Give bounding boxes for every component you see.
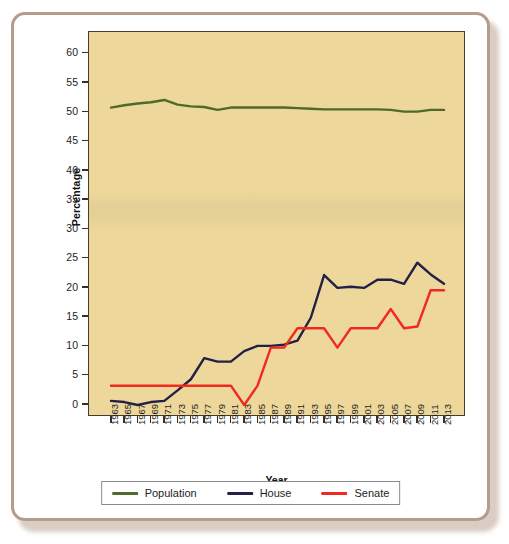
plot-wrapper: Percentage 051015202530354045505560 Year…	[88, 31, 465, 416]
series-line-senate	[111, 290, 444, 405]
x-tick-label: 1987	[270, 404, 280, 425]
x-axis: Year 19631965196719691971197319751977197…	[88, 416, 465, 478]
y-tick-label: 55	[66, 77, 78, 88]
y-tick-label: 35	[66, 194, 78, 205]
x-tick-label: 2001	[363, 404, 373, 425]
figure-card: Percentage 051015202530354045505560 Year…	[11, 12, 490, 521]
x-tick-label: 2005	[390, 404, 400, 425]
y-tick-label: 40	[66, 165, 78, 176]
x-tick-label: 1991	[296, 404, 306, 425]
x-tick-label: 1967	[137, 404, 147, 425]
series-line-house	[111, 263, 444, 405]
legend-label: Population	[145, 487, 197, 499]
x-tick-label: 1975	[190, 404, 200, 425]
y-tick-label: 30	[66, 223, 78, 234]
x-tick-label: 1971	[163, 404, 173, 425]
x-tick-label: 2013	[443, 404, 453, 425]
x-tick-label: 1981	[230, 404, 240, 425]
x-tick-label: 1973	[177, 404, 187, 425]
x-tick-label: 1977	[203, 404, 213, 425]
x-tick-label: 1995	[323, 404, 333, 425]
plot-area	[88, 31, 465, 416]
x-tick-label: 1999	[350, 404, 360, 425]
y-tick-label: 50	[66, 106, 78, 117]
x-tick-label: 2011	[430, 405, 440, 425]
y-tick-label: 10	[66, 340, 78, 351]
x-tick-label: 1969	[150, 404, 160, 425]
x-tick-label: 1979	[217, 404, 227, 425]
legend-label: Senate	[354, 487, 389, 499]
y-tick-label: 15	[66, 311, 78, 322]
x-tick-label: 1989	[283, 404, 293, 425]
y-tick-label: 20	[66, 282, 78, 293]
y-axis: 051015202530354045505560	[42, 31, 88, 416]
x-tick-label: 2007	[403, 404, 413, 425]
x-tick-label: 1965	[123, 404, 133, 425]
legend-swatch-icon	[112, 492, 138, 495]
x-tick-label: 1993	[310, 404, 320, 425]
legend-item-population[interactable]: Population	[112, 487, 197, 499]
legend-item-senate[interactable]: Senate	[321, 487, 389, 499]
series-line-population	[111, 100, 444, 112]
legend-item-house[interactable]: House	[227, 487, 292, 499]
scanned-page-background: Percentage 051015202530354045505560 Year…	[0, 0, 509, 544]
x-tick-label: 1985	[257, 404, 267, 425]
y-tick-label: 0	[72, 399, 78, 410]
chart-legend: PopulationHouseSenate	[101, 481, 401, 505]
y-tick-label: 45	[66, 135, 78, 146]
y-tick-label: 5	[72, 369, 78, 380]
y-tick-label: 25	[66, 252, 78, 263]
x-tick-label: 1983	[243, 404, 253, 425]
x-tick-label: 2009	[416, 404, 426, 425]
x-tick-label: 2003	[376, 404, 386, 425]
series-lines	[89, 32, 465, 416]
x-tick-label: 1963	[110, 404, 120, 425]
legend-swatch-icon	[227, 492, 253, 495]
legend-swatch-icon	[321, 492, 347, 495]
y-tick-label: 60	[66, 47, 78, 58]
x-tick-label: 1997	[336, 404, 346, 425]
legend-label: House	[260, 487, 292, 499]
